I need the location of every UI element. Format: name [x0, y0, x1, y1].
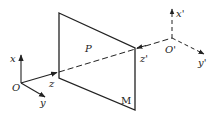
y-axis-label: y	[39, 97, 46, 108]
y-prime-axis-label: y'	[197, 57, 206, 68]
z-prime-axis-label: z'	[139, 53, 148, 64]
x-axis-label: x	[10, 53, 16, 64]
y-axis	[21, 83, 45, 97]
plane-m-label: M	[121, 95, 131, 106]
projection-diagram: P M O x y z O' x' y' z'	[0, 0, 217, 117]
origin-o-label: O	[12, 82, 20, 93]
x-prime-axis-label: x'	[176, 8, 184, 19]
optical-axis-dashed	[59, 38, 172, 72]
origin-o-prime-label: O'	[165, 44, 176, 55]
plane-p-label: P	[84, 43, 92, 54]
y-prime-axis	[172, 38, 204, 54]
z-axis-label: z	[48, 78, 55, 89]
